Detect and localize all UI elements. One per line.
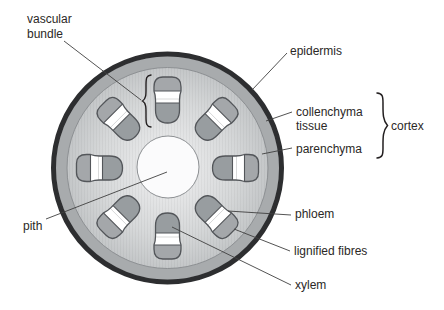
label-collenchyma-line1: collenchyma — [296, 105, 363, 119]
label-collenchyma-line2: tissue — [296, 119, 328, 133]
leader-line-epidermis — [252, 53, 287, 90]
stem-cross-section-figure: vascular bundle epidermis collenchyma ti… — [0, 0, 444, 310]
cortex-brace — [377, 93, 388, 158]
label-pith: pith — [23, 219, 42, 233]
stem-diagram: vascular bundle epidermis collenchyma ti… — [0, 0, 444, 310]
label-epidermis: epidermis — [290, 44, 342, 58]
label-parenchyma: parenchyma — [296, 142, 362, 156]
label-lignified-fibres: lignified fibres — [294, 244, 367, 258]
label-xylem: xylem — [295, 278, 326, 292]
vascular-bundle — [76, 154, 123, 182]
vascular-bundle — [213, 154, 260, 182]
vascular-bundle — [154, 76, 182, 123]
label-vascular-bundle-line2: bundle — [27, 27, 63, 41]
label-vascular-bundle-line1: vascular — [27, 12, 72, 26]
label-cortex: cortex — [391, 119, 424, 133]
vascular-bundle — [154, 213, 182, 260]
label-phloem: phloem — [295, 207, 334, 221]
pith-circle — [137, 136, 199, 198]
